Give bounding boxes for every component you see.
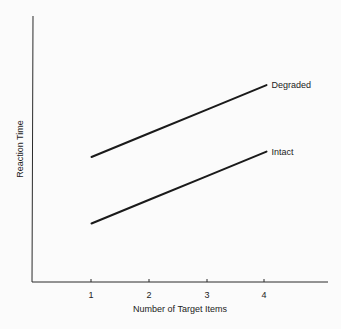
chart-canvas: 1 2 3 4 Number of Target Items Reaction … — [0, 0, 341, 329]
series-line-intact — [92, 152, 267, 224]
series-label-degraded: Degraded — [272, 80, 312, 90]
x-tick-label: 2 — [146, 290, 151, 300]
y-axis — [32, 16, 33, 282]
x-tick-label: 3 — [204, 290, 209, 300]
x-tick-label: 1 — [88, 290, 93, 300]
x-tick-labels: 1 2 3 4 — [88, 290, 266, 300]
y-axis-label: Reaction Time — [15, 120, 25, 178]
x-tick-label: 4 — [261, 290, 266, 300]
series-line-degraded — [92, 85, 267, 157]
x-axis-label: Number of Target Items — [133, 304, 227, 314]
series-label-intact: Intact — [272, 147, 295, 157]
series-layer: DegradedIntact — [92, 80, 312, 223]
